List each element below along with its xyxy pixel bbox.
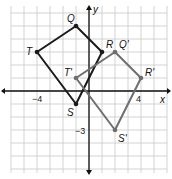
- labels: xy−44−3QRSTQ'R'S'T': [26, 4, 166, 144]
- tick-label: −4: [32, 94, 42, 104]
- vertex-point: [35, 50, 40, 55]
- vertex-point: [113, 50, 118, 55]
- tick-label: −3: [75, 126, 85, 136]
- vertex-point: [139, 76, 144, 81]
- tick-label: 4: [136, 94, 141, 104]
- vertex-label: S': [118, 133, 128, 144]
- vertex-point: [74, 24, 79, 29]
- x-axis-label: x: [159, 94, 166, 105]
- vertex-label: R': [145, 67, 155, 78]
- y-axis-label: y: [92, 4, 99, 15]
- coordinate-plane: xy−44−3QRSTQ'R'S'T': [0, 0, 172, 179]
- y-axis-arrow-down-icon: [86, 170, 92, 175]
- vertex-point: [100, 50, 105, 55]
- y-axis-arrow-icon: [86, 5, 92, 10]
- vertex-point: [74, 102, 79, 107]
- vertex-label: S: [67, 107, 74, 118]
- vertex-point: [74, 76, 79, 81]
- vertex-label: T: [26, 46, 33, 57]
- vertex-point: [113, 128, 118, 133]
- x-axis-arrow-left-icon: [1, 88, 5, 94]
- vertex-label: Q': [119, 39, 130, 50]
- vertex-label: R: [106, 39, 113, 50]
- vertex-label: Q: [67, 13, 75, 24]
- x-axis-arrow-icon: [167, 88, 171, 94]
- vertex-label: T': [64, 67, 73, 78]
